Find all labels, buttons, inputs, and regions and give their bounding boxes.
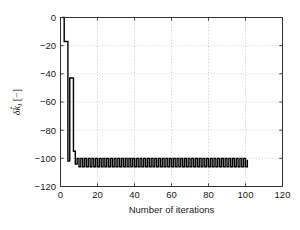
x-tick-label: 60 — [166, 189, 177, 200]
x-tick-label: 120 — [275, 189, 291, 200]
y-tick-label: −80 — [40, 125, 56, 136]
y-tick-label: −40 — [40, 68, 56, 79]
chart-figure: 020406080100120 −120−100−80−60−40−200 Nu… — [0, 0, 300, 230]
figure-background — [0, 0, 300, 230]
y-tick-label: 0 — [51, 12, 56, 23]
convergence-line-chart: 020406080100120 −120−100−80−60−40−200 Nu… — [0, 0, 300, 230]
x-tick-label: 0 — [58, 189, 63, 200]
y-tick-label: −100 — [35, 153, 56, 164]
x-tick-label: 20 — [92, 189, 103, 200]
y-tick-label: −20 — [40, 40, 56, 51]
x-axis-title: Number of iterations — [129, 204, 215, 215]
x-tick-label: 40 — [129, 189, 140, 200]
y-tick-label: −60 — [40, 96, 56, 107]
x-axis-label-text: Number of iterations — [129, 204, 215, 215]
y-tick-label: −120 — [35, 181, 56, 192]
x-tick-label: 80 — [203, 189, 214, 200]
x-tick-label: 100 — [238, 189, 254, 200]
